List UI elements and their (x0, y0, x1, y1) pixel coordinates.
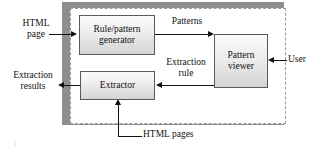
arrow-html-pages-to-extractor-line-horizontal (118, 136, 142, 137)
process-box-rule-pattern-generator-label: Rule/pattern generator (80, 24, 154, 45)
arrow-user-to-viewer-head (268, 57, 274, 63)
caption-artifact: ( (14, 139, 16, 147)
process-box-pattern-viewer-label: Pattern viewer (215, 50, 267, 71)
arrow-generator-to-viewer-line (155, 34, 209, 35)
arrow-viewer-to-extractor-head (156, 82, 162, 88)
label-patterns: Patterns (160, 16, 214, 27)
process-box-extractor[interactable]: Extractor (80, 71, 155, 100)
label-html-page: HTML page (10, 18, 62, 39)
arrow-html-pages-to-extractor-line-vertical (118, 105, 119, 137)
arrow-user-to-viewer-line (274, 60, 287, 61)
arrow-viewer-to-extractor-line (158, 85, 214, 86)
diagram-canvas: Rule/pattern generator Extractor Pattern… (0, 0, 316, 154)
label-html-pages: HTML pages (143, 129, 213, 140)
process-box-pattern-viewer[interactable]: Pattern viewer (214, 34, 268, 88)
process-box-extractor-label: Extractor (98, 80, 137, 91)
label-user: User (288, 54, 316, 65)
arrow-html-page-to-generator-head (71, 31, 77, 37)
label-extraction-rule: Extraction rule (157, 57, 215, 78)
process-box-rule-pattern-generator[interactable]: Rule/pattern generator (79, 15, 155, 55)
arrow-extractor-to-results-line (62, 85, 81, 86)
label-extraction-results: Extraction results (2, 70, 64, 91)
